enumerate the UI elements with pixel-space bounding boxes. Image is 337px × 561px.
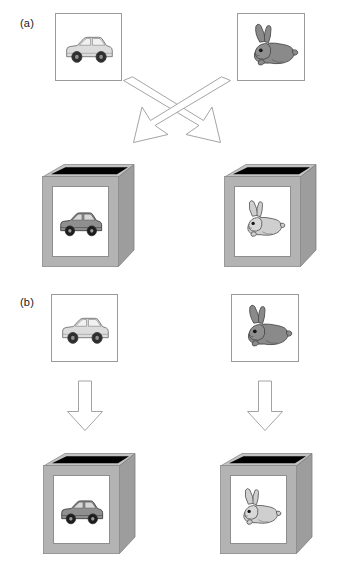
panel-b-box-rabbit — [218, 451, 314, 557]
figure-diagram: (a) — [0, 0, 337, 561]
arrow-down-icon — [66, 380, 104, 432]
panel-b-label: (b) — [20, 296, 34, 308]
panel-b-arrow-right — [246, 380, 284, 432]
panel-a-box-car-label — [52, 186, 109, 257]
panel-a-crossed-arrows — [120, 76, 234, 150]
panel-b-box-car — [41, 451, 137, 557]
car-icon — [52, 295, 117, 361]
panel-a-card-rabbit — [237, 13, 305, 81]
panel-a-box-car — [40, 162, 136, 270]
car-icon — [53, 187, 108, 256]
panel-a: (a) — [0, 0, 337, 281]
rabbit-icon — [238, 14, 304, 80]
panel-b-card-car — [51, 294, 118, 362]
panel-a-card-car — [55, 13, 122, 81]
car-icon — [56, 14, 121, 80]
rabbit-icon — [231, 476, 286, 543]
panel-a-label: (a) — [20, 17, 34, 29]
arrow-down-icon — [246, 380, 284, 432]
car-icon — [54, 476, 109, 543]
panel-a-box-rabbit-label — [234, 186, 291, 257]
rabbit-icon — [235, 187, 290, 256]
panel-b-arrow-left — [66, 380, 104, 432]
panel-b: (b) — [0, 281, 337, 561]
panel-a-box-rabbit — [222, 162, 318, 270]
panel-b-box-rabbit-label — [230, 475, 287, 544]
panel-b-card-rabbit — [231, 294, 299, 362]
panel-b-box-car-label — [53, 475, 110, 544]
rabbit-icon — [232, 295, 298, 361]
